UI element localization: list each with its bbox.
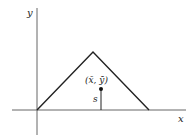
y-axis-label: y bbox=[26, 7, 33, 18]
x-axis-label: x bbox=[178, 113, 184, 124]
diagram: y x (x̄, ȳ) s bbox=[0, 0, 192, 138]
centroid-label: (x̄, ȳ) bbox=[85, 75, 108, 85]
distance-label: s bbox=[93, 94, 98, 104]
centroid-point bbox=[99, 87, 103, 91]
